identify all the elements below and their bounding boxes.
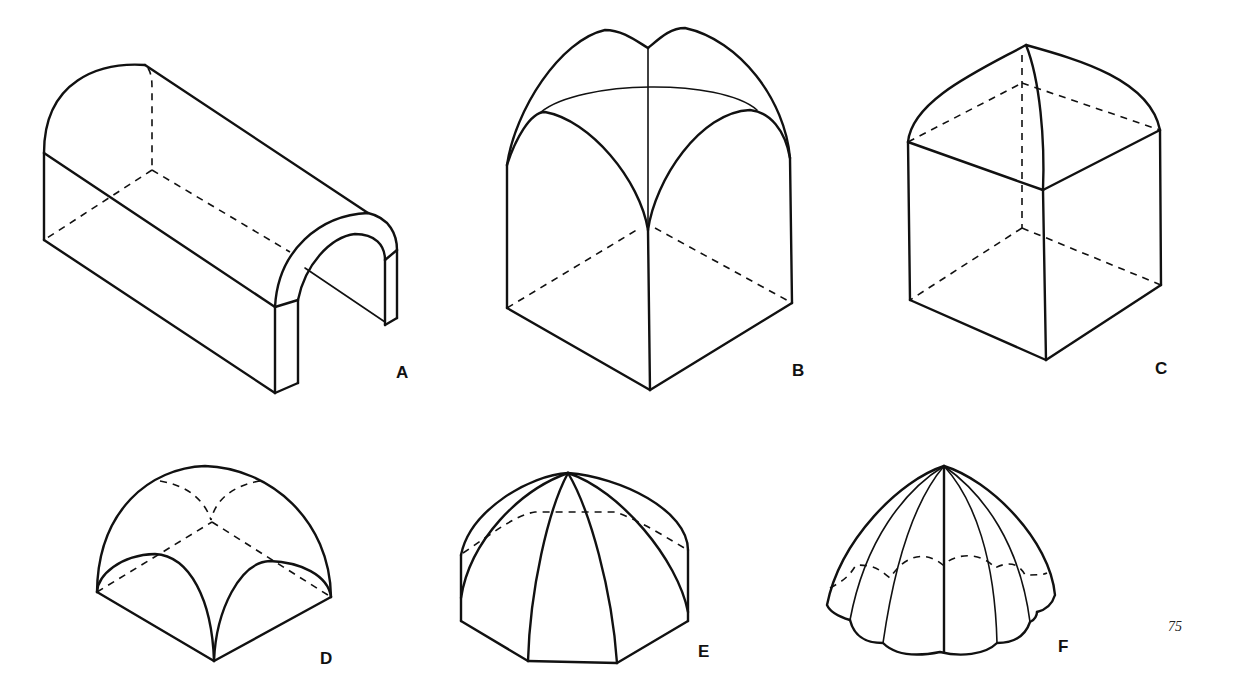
page-number: 75 [1168,620,1182,634]
figure-label-d: D [320,650,332,667]
figure-label-e: E [698,643,709,660]
figure-e-ribbed-dome [461,473,688,663]
figure-c-cloister-vault [908,45,1161,360]
figure-label-a: A [396,364,408,381]
vault-diagram-canvas [0,0,1233,684]
figure-label-c: C [1155,360,1167,377]
figure-b-groin-vault [507,28,792,390]
figure-f-fluted-dome [827,466,1055,655]
figure-label-b: B [792,362,804,379]
figure-d-domical-vault [97,466,331,661]
figure-label-f: F [1058,638,1068,655]
figure-a-barrel-vault [44,65,397,393]
